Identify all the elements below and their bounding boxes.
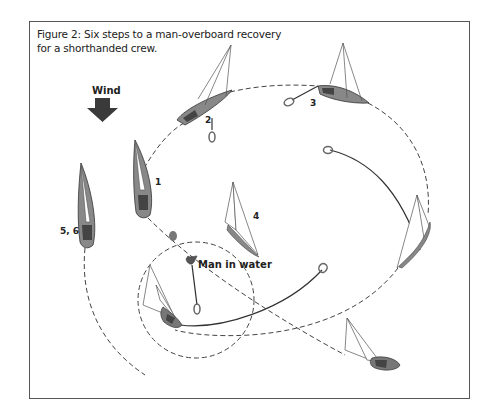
step-2-label: 2 [205, 115, 211, 125]
path-5-6 [84, 248, 145, 375]
person-in-water-icon [186, 256, 197, 264]
sailboat-icon [318, 43, 369, 103]
sailboat-icon [78, 163, 95, 248]
sailboat-icon [345, 318, 400, 370]
liferings [194, 97, 333, 314]
lifering-icon [209, 132, 215, 142]
path-3-to-right [368, 103, 428, 215]
lifelines [180, 86, 420, 326]
path-1-to-2 [140, 118, 195, 175]
path-2-to-3 [230, 85, 318, 92]
lifering-icon [194, 304, 200, 314]
lifeline-man [192, 265, 197, 305]
sailboat-icon [143, 265, 182, 328]
sailboat-icon [134, 140, 152, 218]
step-3-label: 3 [310, 98, 316, 108]
step-4-label: 4 [253, 211, 259, 221]
lifering-icon [283, 97, 295, 108]
step-1-label: 1 [155, 177, 161, 187]
wind-label: Wind [92, 85, 121, 96]
sailboat-icon [397, 195, 430, 268]
marker-buoy-icon [169, 231, 177, 241]
step-5-6-label: 5, 6 [60, 226, 79, 236]
man-overboard-diagram: Wind 2 3 1 5, 6 4 Man [0, 0, 482, 420]
lifering-icon [317, 262, 328, 274]
wind-arrow-icon [87, 98, 118, 122]
man-in-water-label: Man in water [198, 259, 272, 270]
course-paths [84, 85, 428, 375]
sailboat-icon [177, 45, 232, 125]
